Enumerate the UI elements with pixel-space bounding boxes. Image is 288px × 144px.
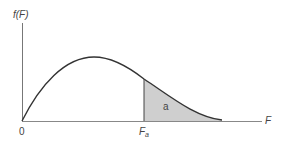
chart-canvas: [0, 0, 288, 144]
origin-label: 0: [19, 127, 25, 137]
critical-value-label: Fa: [139, 127, 149, 137]
x-axis-label: F: [265, 116, 271, 126]
area-label: a: [163, 102, 169, 112]
f-distribution-chart: f(F) F 0 Fa a: [0, 0, 288, 144]
critical-value-subscript: a: [145, 131, 149, 138]
y-axis-label: f(F): [13, 10, 29, 20]
shaded-tail-area: [144, 79, 222, 121]
